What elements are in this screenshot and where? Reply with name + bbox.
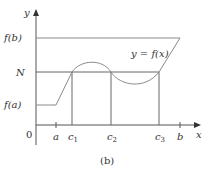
- y-axis-label: y: [23, 7, 30, 18]
- fa-label: f(a): [3, 99, 22, 110]
- x-axis-arrow-icon: [194, 122, 201, 128]
- ivt-diagram: y x 0 f(b) N f(a) y = f(x) a c1 c2 c3: [0, 0, 214, 181]
- n-label: N: [15, 67, 26, 78]
- y-axis: y: [23, 7, 39, 145]
- c2-label: c2: [107, 131, 117, 144]
- c1-label: c1: [68, 131, 78, 144]
- figure-caption: (b): [100, 155, 114, 166]
- x-axis-label: x: [196, 129, 202, 140]
- curve-label: y = f(x): [130, 48, 169, 59]
- origin-label: 0: [26, 129, 32, 140]
- b-label: b: [177, 131, 183, 142]
- y-axis-arrow-icon: [33, 9, 39, 16]
- fb-label: f(b): [3, 32, 22, 43]
- a-label: a: [53, 131, 59, 142]
- c3-label: c3: [155, 131, 165, 144]
